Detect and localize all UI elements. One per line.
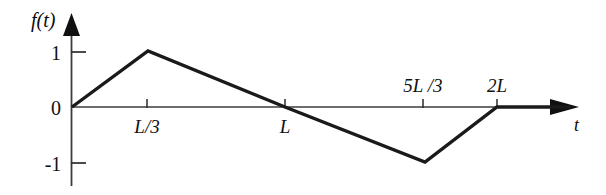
x-tick-label-l: L <box>279 116 291 137</box>
y-axis-arrow-icon <box>63 13 80 36</box>
y-axis-label: f(t) <box>31 9 56 32</box>
y-tick-label-zero: 0 <box>51 97 61 119</box>
x-tick-label-l-over-3: L/3 <box>133 116 159 137</box>
x-axis-label: t <box>574 115 580 135</box>
x-tick-label-5l-over-3: 5L /3 <box>403 75 442 96</box>
waveform-figure: f(t) t 1 0 -1 L/3 L 5L /3 2L <box>0 0 606 195</box>
signal-plot: f(t) t 1 0 -1 L/3 L 5L /3 2L <box>0 0 606 195</box>
y-tick-label-minus-one: -1 <box>45 153 62 175</box>
x-tick-label-2l: 2L <box>487 75 507 96</box>
y-tick-label-one: 1 <box>51 42 61 64</box>
